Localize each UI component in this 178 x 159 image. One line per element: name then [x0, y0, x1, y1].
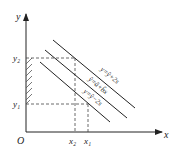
y1-label: y₁ — [12, 99, 20, 109]
hatched-interval — [26, 58, 32, 104]
regression-band-diagram: y x O y₂ y₁ x₂ x₁ y=ŷ+2s ŷ=â+b̂x y=ŷ−2s — [0, 0, 178, 159]
diagram-canvas: y x O y₂ y₁ x₂ x₁ y=ŷ+2s ŷ=â+b̂x y=ŷ−2s — [0, 0, 178, 159]
y-axis-label: y — [15, 11, 21, 22]
origin-label: O — [17, 135, 24, 146]
x2-label: x₂ — [68, 136, 76, 146]
x1-label: x₁ — [83, 136, 91, 146]
y2-label: y₂ — [12, 53, 20, 63]
x-axis-label: x — [163, 129, 169, 140]
